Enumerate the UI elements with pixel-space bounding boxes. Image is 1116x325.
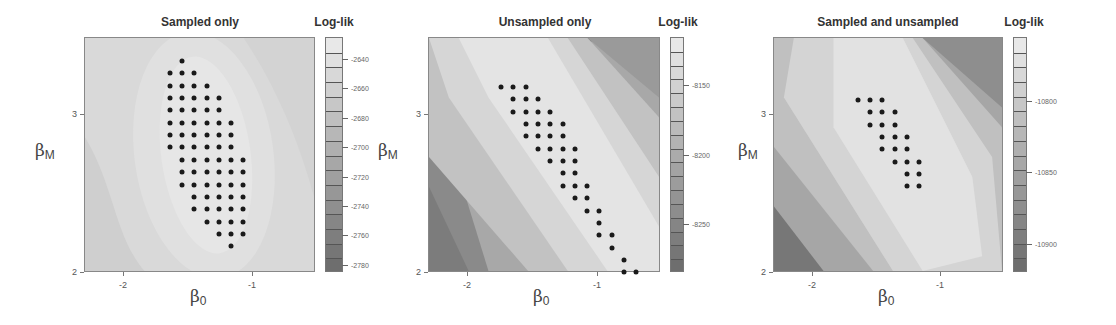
- colorbar-level: [1014, 126, 1026, 142]
- y-axis-label-sub: M: [748, 148, 758, 162]
- colorbar-level: [1014, 67, 1026, 83]
- colorbar-level: [1014, 141, 1026, 157]
- colorbar: [1013, 37, 1027, 272]
- colorbar-level: [1014, 229, 1026, 245]
- x-axis-label-sub: 0: [888, 294, 895, 308]
- colorbar-level: [1014, 185, 1026, 201]
- colorbar-level: [1014, 97, 1026, 113]
- colorbar-tick-label: -10900: [1035, 240, 1057, 247]
- data-point: [904, 159, 909, 164]
- data-point: [904, 147, 909, 152]
- y-tick-label: 2: [761, 267, 766, 277]
- y-tick: [769, 272, 773, 273]
- data-point: [880, 134, 885, 139]
- colorbar-tick: [1026, 101, 1032, 102]
- data-point: [917, 171, 922, 176]
- data-point: [880, 122, 885, 127]
- colorbar-level: [1014, 170, 1026, 186]
- contour-fill: [774, 38, 1002, 271]
- colorbar-level: [1014, 200, 1026, 216]
- colorbar-level: [1014, 82, 1026, 98]
- data-point: [880, 110, 885, 115]
- x-tick-label: -2: [808, 280, 816, 290]
- y-axis-label-text: β: [738, 140, 748, 160]
- panel-sampled-and-unsampled: Sampled and unsampled Log-lik -2-132 βM …: [0, 0, 1116, 325]
- colorbar-level: [1014, 156, 1026, 172]
- y-tick: [769, 114, 773, 115]
- x-tick: [940, 272, 941, 276]
- panel-title: Sampled and unsampled: [817, 15, 958, 29]
- colorbar-tick-label: -10850: [1035, 169, 1057, 176]
- y-axis-label: βM: [738, 140, 758, 162]
- colorbar-tick: [1026, 172, 1032, 173]
- data-point: [856, 98, 861, 103]
- colorbar-tick: [1026, 244, 1032, 245]
- data-point: [904, 171, 909, 176]
- data-point: [868, 122, 873, 127]
- colorbar-level: [1014, 258, 1026, 272]
- data-point: [892, 147, 897, 152]
- data-point: [892, 110, 897, 115]
- colorbar-level: [1014, 214, 1026, 230]
- data-point: [892, 159, 897, 164]
- x-axis-label: β0: [878, 286, 895, 308]
- x-axis-label-text: β: [878, 286, 888, 306]
- x-tick-label: -1: [936, 280, 944, 290]
- data-point: [917, 184, 922, 189]
- x-tick: [812, 272, 813, 276]
- data-point: [868, 110, 873, 115]
- data-point: [917, 159, 922, 164]
- data-point: [880, 147, 885, 152]
- data-point: [892, 122, 897, 127]
- colorbar-title: Log-lik: [1004, 15, 1043, 29]
- data-point: [880, 98, 885, 103]
- data-point: [868, 98, 873, 103]
- y-tick-label: 3: [761, 109, 766, 119]
- colorbar-level: [1014, 38, 1026, 54]
- colorbar-level: [1014, 53, 1026, 69]
- colorbar-level: [1014, 244, 1026, 260]
- data-point: [892, 134, 897, 139]
- colorbar-tick-label: -10800: [1035, 98, 1057, 105]
- colorbar-level: [1014, 111, 1026, 127]
- contour-plot: [773, 37, 1003, 272]
- data-point: [904, 184, 909, 189]
- data-point: [904, 134, 909, 139]
